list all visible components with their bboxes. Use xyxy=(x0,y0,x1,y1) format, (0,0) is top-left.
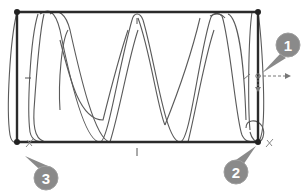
callout-2: 2 xyxy=(224,146,256,184)
corner-point-bottom-left[interactable] xyxy=(14,139,20,145)
callout-2-label: 2 xyxy=(232,164,240,181)
corner-point-top-right[interactable] xyxy=(255,9,261,15)
sketch-canvas: 1 2 3 xyxy=(0,0,308,195)
callout-1: 1 xyxy=(262,33,300,73)
callout-3-label: 3 xyxy=(42,170,50,187)
corner-point-top-left[interactable] xyxy=(14,9,20,15)
corner-point-bottom-right[interactable] xyxy=(255,139,261,145)
start-point-marker[interactable] xyxy=(244,73,291,92)
callout-3: 3 xyxy=(25,156,58,190)
callout-1-label: 1 xyxy=(284,37,292,54)
helix-sweep xyxy=(8,11,263,142)
constraint-markers xyxy=(25,18,137,156)
